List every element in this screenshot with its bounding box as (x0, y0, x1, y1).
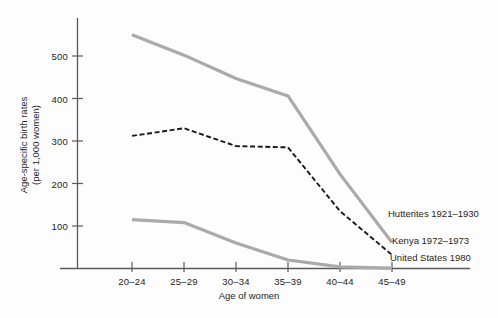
y-tick-label: 100 (40, 221, 68, 232)
x-tick-label: 20–24 (118, 276, 145, 287)
x-tick-label: 40–44 (326, 276, 353, 287)
chart-plot-svg (0, 0, 498, 318)
x-axis-title: Age of women (219, 290, 280, 301)
series-label-kenya: Kenya 1972–1973 (392, 235, 469, 246)
y-tick-label: 400 (40, 93, 68, 104)
y-tick-label: 300 (40, 136, 68, 147)
x-tick-label: 35–39 (274, 276, 301, 287)
x-tick-label: 30–34 (222, 276, 249, 287)
series-line-0 (132, 35, 392, 243)
y-axis-title: Age-specific birth rates (per 1,000 wome… (18, 80, 42, 210)
series-label-hutterites: Hutterites 1921–1930 (388, 208, 479, 219)
x-tick-label: 25–29 (170, 276, 197, 287)
x-tick-label: 45–49 (378, 276, 405, 287)
series-label-united-states: United States 1980 (390, 252, 471, 263)
series-line-2 (132, 220, 392, 268)
y-tick-label: 200 (40, 178, 68, 189)
chart-container: 100200300400500 20–2425–2930–3435–3940–4… (0, 0, 498, 318)
series-lines-group (132, 35, 392, 268)
y-axis-title-line2: (per 1,000 women) (30, 80, 42, 210)
y-axis-title-line1: Age-specific birth rates (18, 80, 30, 210)
y-tick-label: 500 (40, 51, 68, 62)
